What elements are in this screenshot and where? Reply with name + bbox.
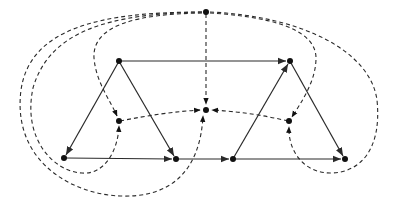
graph-diagram	[0, 0, 396, 211]
dual-node-t	[203, 9, 209, 15]
dual-node-r	[286, 118, 292, 124]
dual-edges	[20, 12, 378, 196]
node-f	[342, 156, 348, 162]
dual-edge-l-m	[120, 110, 200, 121]
dual-edge-r-m	[212, 110, 288, 121]
edge-c-d	[66, 158, 172, 159]
node-d	[173, 156, 179, 162]
dual-nodes	[116, 9, 292, 124]
dual-node-l	[116, 118, 122, 124]
node-a	[116, 58, 122, 64]
edge-b-f	[291, 63, 343, 156]
dual-edge-t-l-inner	[94, 13, 202, 116]
dual-node-m	[203, 107, 209, 113]
node-e	[230, 156, 236, 162]
node-c	[61, 155, 67, 161]
edge-a-c	[66, 63, 118, 155]
dual-edge-t-r-outer	[210, 12, 378, 173]
edge-e-b	[234, 64, 288, 157]
node-b	[287, 58, 293, 64]
dual-edge-t-l-middle	[31, 12, 202, 173]
edge-a-d	[120, 63, 174, 156]
